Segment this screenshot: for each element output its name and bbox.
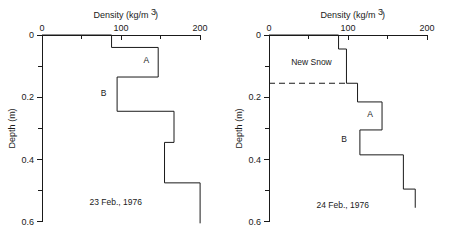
layer-annotation-a: A xyxy=(144,55,150,65)
snow-density-figure: 0100200Density (kg/m3)00.20.40.6Depth (m… xyxy=(0,0,454,244)
y-axis-tick-label: 0.6 xyxy=(21,217,34,227)
new-snow-label: New Snow xyxy=(291,57,332,67)
layer-annotation-a: A xyxy=(367,109,373,119)
date-caption: 23 Feb., 1976 xyxy=(89,197,142,207)
y-axis-tick-label: 0.2 xyxy=(21,92,34,102)
x-axis-title: Density (kg/m3) xyxy=(321,7,385,20)
y-axis-tick-label: 0 xyxy=(256,30,261,40)
chart-panel-left: 0100200Density (kg/m3)00.20.40.6Depth (m… xyxy=(0,0,227,244)
x-axis-tick-label: 100 xyxy=(341,23,356,33)
plot-area: 0100200Density (kg/m3)00.20.40.6Depth (m… xyxy=(234,7,435,227)
date-caption: 24 Feb., 1976 xyxy=(316,200,369,210)
layer-annotation-b: B xyxy=(101,88,107,98)
y-axis-tick-label: 0.6 xyxy=(248,217,261,227)
x-axis-tick-label: 200 xyxy=(193,23,208,33)
x-axis-tick-label: 200 xyxy=(420,23,435,33)
density-profile-line xyxy=(42,35,200,223)
layer-annotation-b: B xyxy=(341,134,347,144)
x-axis-tick-label: 100 xyxy=(114,23,129,33)
chart-svg-right: 0100200Density (kg/m3)00.20.40.6Depth (m… xyxy=(227,0,454,244)
y-axis-title: Depth (m) xyxy=(7,108,17,148)
chart-svg-left: 0100200Density (kg/m3)00.20.40.6Depth (m… xyxy=(0,0,227,244)
x-axis-title-close-paren: ) xyxy=(382,10,385,20)
y-axis-title: Depth (m) xyxy=(234,108,244,148)
x-axis-title: Density (kg/m3) xyxy=(94,7,158,20)
y-axis-tick-label: 0.4 xyxy=(21,155,34,165)
y-axis-tick-label: 0 xyxy=(29,30,34,40)
x-axis-title-text: Density (kg/m xyxy=(94,10,149,20)
y-axis-tick-label: 0.2 xyxy=(248,92,261,102)
x-axis-tick-label: 0 xyxy=(266,23,271,33)
chart-panel-right: 0100200Density (kg/m3)00.20.40.6Depth (m… xyxy=(227,0,454,244)
plot-area: 0100200Density (kg/m3)00.20.40.6Depth (m… xyxy=(7,7,208,227)
x-axis-title-close-paren: ) xyxy=(155,10,158,20)
x-axis-tick-label: 0 xyxy=(39,23,44,33)
x-axis-title-text: Density (kg/m xyxy=(321,10,376,20)
y-axis-tick-label: 0.4 xyxy=(248,155,261,165)
